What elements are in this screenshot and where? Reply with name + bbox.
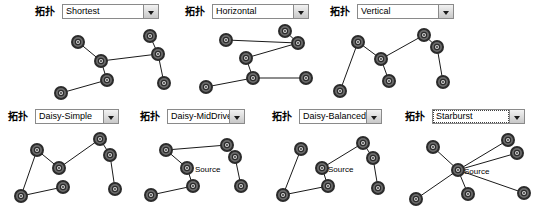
graph-canvas — [0, 0, 180, 105]
graph-canvas — [270, 105, 400, 221]
graph-daisy-middriven: Source — [135, 105, 270, 221]
graph-edge — [226, 40, 298, 43]
graph-node[interactable] — [367, 152, 379, 164]
graph-node[interactable] — [152, 48, 164, 60]
graph-daisy-balanced: Source — [270, 105, 400, 221]
graph-node[interactable] — [200, 81, 212, 93]
graph-node[interactable] — [101, 74, 113, 86]
graph-node[interactable] — [375, 53, 387, 65]
graph-node[interactable] — [452, 164, 464, 176]
graph-shortest — [0, 0, 180, 105]
source-node-label: Source — [464, 167, 489, 176]
graph-node[interactable] — [95, 55, 107, 67]
graph-node[interactable] — [144, 30, 156, 42]
graph-node[interactable] — [235, 180, 247, 192]
graph-edge — [101, 54, 158, 61]
graph-node[interactable] — [158, 77, 170, 89]
graph-node[interactable] — [247, 72, 259, 84]
graph-node[interactable] — [31, 144, 43, 156]
panel-daisy-middriven: 拓扑 Daisy-MidDriven Source — [135, 105, 270, 221]
graph-edge — [381, 35, 424, 59]
graph-edge — [166, 145, 227, 150]
graph-edge — [246, 43, 298, 58]
graph-node[interactable] — [437, 76, 449, 88]
graph-node[interactable] — [109, 183, 121, 195]
graph-node[interactable] — [372, 182, 384, 194]
panel-daisy-simple: 拓扑 Daisy-Simple — [0, 105, 135, 221]
graph-node[interactable] — [431, 41, 443, 53]
graph-canvas — [400, 105, 536, 221]
graph-edge — [283, 149, 301, 195]
panel-daisy-balanced: 拓扑 Daisy-Balanced Source — [270, 105, 400, 221]
graph-horizontal — [180, 0, 325, 105]
graph-edge — [340, 42, 358, 91]
graph-node[interactable] — [160, 144, 172, 156]
graph-node[interactable] — [300, 72, 312, 84]
source-node-label: Source — [195, 165, 220, 174]
graph-canvas — [180, 0, 325, 105]
graph-node[interactable] — [145, 189, 157, 201]
panel-starburst: 拓扑 Starburst Source — [400, 105, 536, 221]
graph-edge — [416, 170, 458, 199]
graph-node[interactable] — [187, 180, 199, 192]
graph-vertical — [325, 0, 536, 105]
graph-node[interactable] — [104, 149, 116, 161]
graph-node[interactable] — [462, 188, 474, 200]
panel-shortest: 拓扑 Shortest — [0, 0, 180, 105]
graph-node[interactable] — [518, 187, 530, 199]
graph-node[interactable] — [357, 137, 369, 149]
graph-node[interactable] — [277, 189, 289, 201]
graph-node[interactable] — [383, 75, 395, 87]
graph-node[interactable] — [181, 162, 193, 174]
graph-edge — [21, 150, 37, 196]
graph-node[interactable] — [502, 134, 514, 146]
graph-node[interactable] — [295, 143, 307, 155]
graph-edge — [458, 140, 508, 170]
graph-canvas — [0, 105, 135, 221]
graph-node[interactable] — [53, 162, 65, 174]
graph-node[interactable] — [279, 25, 291, 37]
graph-node[interactable] — [220, 34, 232, 46]
graph-node[interactable] — [292, 37, 304, 49]
graph-starburst: Source — [400, 105, 536, 221]
graph-node[interactable] — [221, 139, 233, 151]
graph-node[interactable] — [240, 52, 252, 64]
graph-node[interactable] — [316, 162, 328, 174]
graph-node[interactable] — [322, 180, 334, 192]
graph-node[interactable] — [57, 181, 69, 193]
graph-canvas — [135, 105, 270, 221]
graph-canvas — [325, 0, 536, 105]
graph-edge — [206, 78, 253, 87]
graph-node[interactable] — [427, 141, 439, 153]
graph-node[interactable] — [229, 151, 241, 163]
graph-node[interactable] — [72, 36, 84, 48]
graph-edge — [59, 139, 100, 168]
graph-node[interactable] — [410, 193, 422, 205]
graph-node[interactable] — [334, 85, 346, 97]
panel-vertical: 拓扑 Vertical — [325, 0, 536, 105]
graph-daisy-simple — [0, 105, 135, 221]
graph-node[interactable] — [55, 87, 67, 99]
graph-edge — [61, 80, 107, 93]
graph-node[interactable] — [94, 133, 106, 145]
graph-node[interactable] — [352, 36, 364, 48]
panel-horizontal: 拓扑 Horizontal — [180, 0, 325, 105]
graph-node[interactable] — [15, 190, 27, 202]
graph-node[interactable] — [418, 29, 430, 41]
source-node-label: Source — [328, 165, 353, 174]
graph-node[interactable] — [511, 147, 523, 159]
